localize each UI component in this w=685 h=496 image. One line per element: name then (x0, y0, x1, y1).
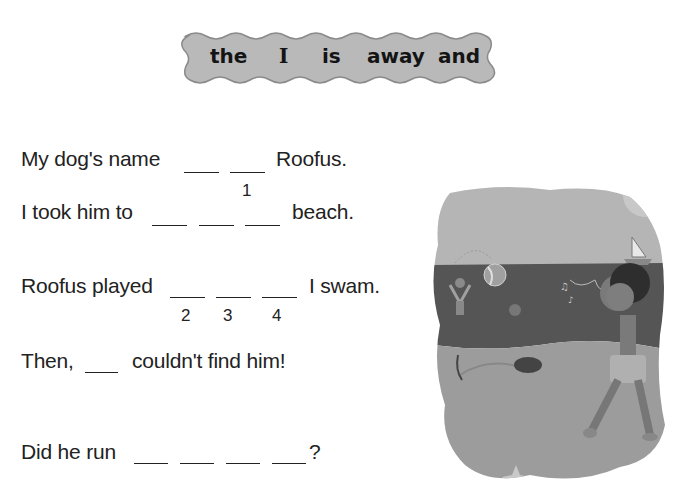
word-and: and (438, 44, 480, 68)
answer-blank[interactable] (230, 172, 265, 173)
svg-text:♫: ♫ (560, 281, 569, 292)
answer-blank[interactable] (180, 463, 214, 464)
letter-number: 3 (223, 306, 232, 326)
word-bank: the I is away and (172, 28, 502, 88)
answer-blank[interactable] (170, 297, 205, 298)
letter-number: 4 (272, 306, 281, 326)
sentence-text: ? (309, 440, 320, 464)
answer-blank[interactable] (216, 297, 251, 298)
sentence-text: I took him to (21, 200, 133, 224)
sentence-text: Then, (21, 349, 74, 373)
sentence-text: Did he run (21, 440, 116, 464)
sentence-text: My dog's name (21, 147, 160, 171)
word-is: is (322, 44, 341, 68)
sentence-text: Roofus played (21, 274, 153, 298)
word-away: away (367, 44, 425, 68)
answer-blank[interactable] (262, 297, 297, 298)
answer-blank[interactable] (134, 463, 168, 464)
letter-number: 2 (181, 306, 190, 326)
sentence-text: couldn't find him! (132, 349, 285, 373)
beach-illustration: ♫ ♪ (420, 185, 670, 494)
answer-blank[interactable] (226, 463, 260, 464)
sentence-text: I swam. (309, 274, 380, 298)
answer-blank[interactable] (85, 372, 118, 373)
word-I: I (279, 44, 288, 68)
answer-blank[interactable] (272, 463, 306, 464)
svg-text:♪: ♪ (568, 295, 574, 305)
answer-blank[interactable] (245, 225, 280, 226)
answer-blank[interactable] (199, 225, 234, 226)
sentence-text: beach. (292, 200, 354, 224)
word-the: the (210, 44, 247, 68)
answer-blank[interactable] (184, 172, 219, 173)
sentence-text: Roofus. (276, 147, 347, 171)
letter-number: 1 (242, 181, 251, 201)
answer-blank[interactable] (152, 225, 187, 226)
